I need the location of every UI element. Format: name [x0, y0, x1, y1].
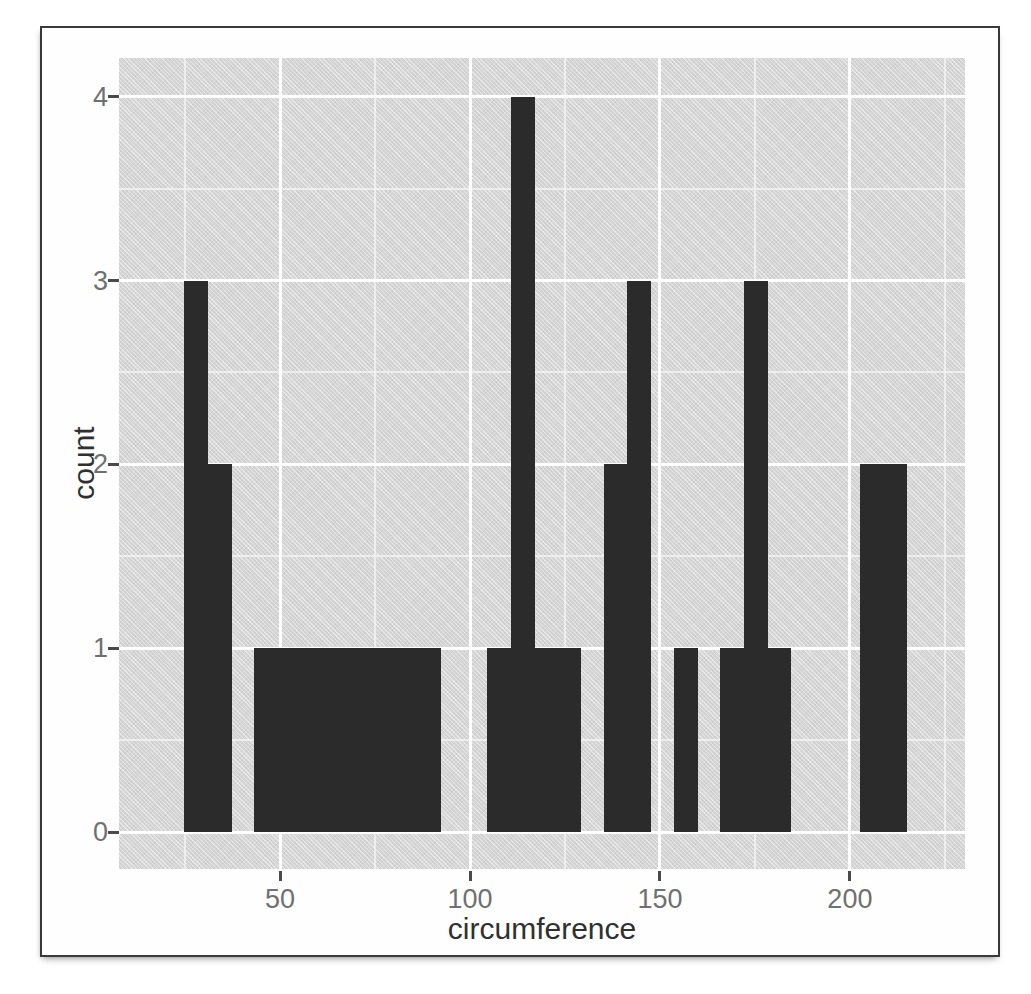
y-tick-label: 3: [38, 266, 108, 296]
histogram-bar: [883, 464, 907, 832]
x-tick-label: 200: [805, 884, 895, 914]
x-tick-mark: [658, 871, 661, 881]
y-tick-mark: [108, 279, 119, 282]
histogram-bar: [417, 648, 441, 832]
x-tick-label: 50: [235, 884, 325, 914]
histogram-bar: [487, 648, 511, 832]
figure-page: 01234 50100150200 count circumference: [0, 0, 1031, 994]
y-minor-gridline: [119, 555, 965, 557]
x-tick-mark: [848, 871, 851, 881]
y-tick-mark: [108, 831, 119, 834]
histogram-bar: [604, 464, 628, 832]
y-minor-gridline: [119, 371, 965, 373]
histogram-bar: [511, 97, 535, 833]
histogram-bar: [720, 648, 744, 832]
histogram-bar: [557, 648, 581, 832]
histogram-bar: [674, 648, 698, 832]
y-tick-mark: [108, 647, 119, 650]
histogram-bar: [347, 648, 371, 832]
x-tick-mark: [469, 871, 472, 881]
y-major-gridline: [119, 279, 965, 282]
histogram-bar: [254, 648, 278, 832]
y-tick-mark: [108, 95, 119, 98]
histogram-bar: [184, 281, 208, 833]
histogram-bar: [208, 464, 232, 832]
y-tick-label: 0: [38, 817, 108, 847]
x-axis-title: circumference: [448, 912, 636, 946]
histogram-bar: [371, 648, 395, 832]
histogram-bar: [324, 648, 348, 832]
histogram-bar: [860, 464, 884, 832]
y-major-gridline: [119, 95, 965, 98]
x-tick-label: 150: [615, 884, 705, 914]
histogram-bar: [394, 648, 418, 832]
x-tick-mark: [279, 871, 282, 881]
histogram-bar: [534, 648, 558, 832]
histogram-bar: [278, 648, 302, 832]
histogram-bar: [744, 281, 768, 833]
histogram-bar: [301, 648, 325, 832]
histogram-bar: [627, 281, 651, 833]
y-tick-label: 4: [38, 82, 108, 112]
y-axis-title: count: [67, 426, 101, 499]
y-tick-mark: [108, 463, 119, 466]
y-major-gridline: [119, 463, 965, 466]
y-tick-label: 1: [38, 633, 108, 663]
x-tick-label: 100: [425, 884, 515, 914]
plot-panel: [119, 58, 965, 869]
histogram-bar: [767, 648, 791, 832]
y-minor-gridline: [119, 188, 965, 190]
